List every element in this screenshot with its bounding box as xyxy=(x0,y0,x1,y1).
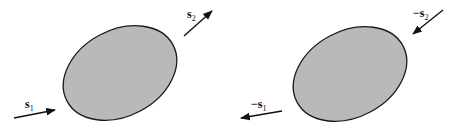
diagram-canvas xyxy=(0,0,454,127)
left-ellipse xyxy=(47,7,193,127)
label-s2: s2 xyxy=(187,8,196,23)
label-s1: s1 xyxy=(25,98,34,113)
arrow-s1 xyxy=(14,110,55,118)
right-panel xyxy=(241,8,443,127)
label-neg-s2: −s2 xyxy=(413,7,429,22)
label-neg-s1: −s1 xyxy=(251,98,267,113)
left-panel xyxy=(14,7,212,127)
right-ellipse xyxy=(277,8,423,127)
